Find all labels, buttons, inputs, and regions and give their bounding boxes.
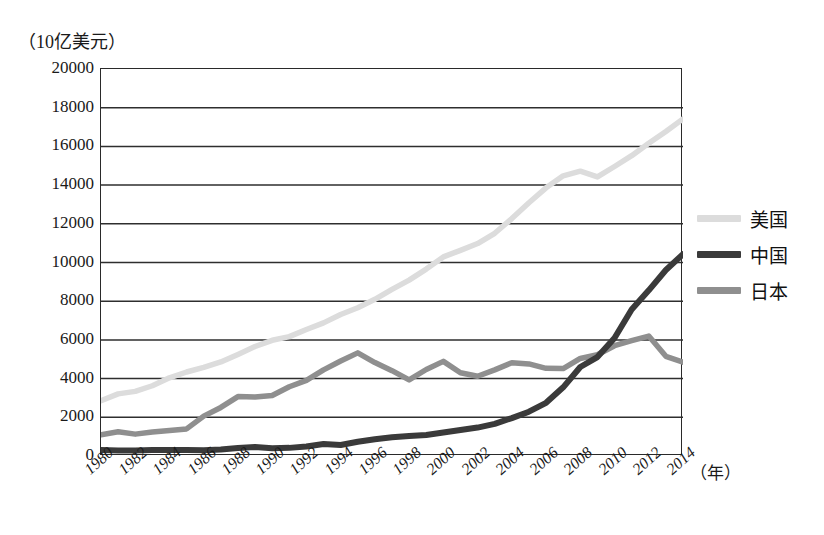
legend-item[interactable]: 中国 — [697, 236, 817, 272]
legend-label: 美国 — [750, 205, 788, 232]
y-axis-tick-label: 6000 — [60, 330, 94, 347]
legend-label: 中国 — [750, 241, 788, 268]
legend-label: 日本 — [750, 277, 788, 304]
y-axis-tick-label: 10000 — [52, 253, 95, 270]
legend-swatch-icon — [697, 287, 741, 294]
legend-swatch-icon — [697, 215, 741, 222]
plot-area — [100, 68, 682, 455]
y-axis-tick-label: 12000 — [52, 214, 95, 231]
y-axis-tick-label: 14000 — [52, 175, 95, 192]
legend-swatch-icon — [697, 251, 741, 258]
legend-item[interactable]: 日本 — [697, 272, 817, 308]
y-axis-tick-label: 16000 — [52, 136, 95, 153]
y-axis-tick-label: 18000 — [52, 98, 95, 115]
chart-legend: 美国中国日本 — [697, 200, 817, 308]
y-axis-tick-label: 2000 — [60, 407, 94, 424]
x-axis-unit-label: （年） — [690, 459, 741, 484]
y-axis-tick-label: 20000 — [52, 59, 95, 76]
y-axis-tick-labels: 2000018000160001400012000100008000600040… — [0, 0, 94, 535]
y-axis-tick-label: 8000 — [60, 291, 94, 308]
series-line-japan — [101, 336, 683, 435]
legend-item[interactable]: 美国 — [697, 200, 817, 236]
y-axis-tick-label: 4000 — [60, 369, 94, 386]
line-chart: （10亿美元） 20000180001600014000120001000080… — [0, 0, 824, 535]
plot-svg — [101, 69, 683, 456]
